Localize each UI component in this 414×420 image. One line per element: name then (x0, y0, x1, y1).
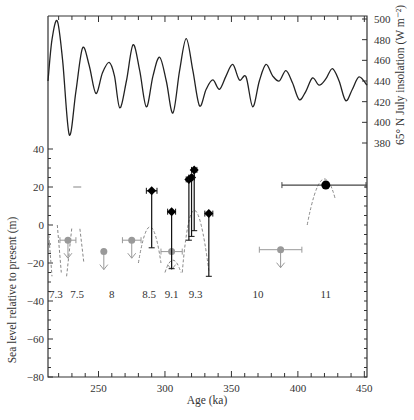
highstand-point (204, 209, 213, 276)
mis-stage-label: 10 (253, 288, 265, 300)
x-tick-label: 450 (356, 382, 373, 394)
left-y-tick-label: 20 (33, 181, 45, 193)
mis-stage-label: 8.5 (142, 288, 156, 300)
right-y-tick-label: 400 (374, 116, 391, 128)
right-y-tick-label: 500 (374, 13, 391, 25)
x-axis-title: Age (ka) (187, 394, 228, 407)
mis-stage-label: 7.3 (49, 288, 63, 300)
x-tick-label: 400 (290, 382, 307, 394)
upper-limit-point (60, 237, 76, 259)
mis-stage-label: 9.3 (189, 288, 203, 300)
plot-frame (48, 16, 367, 377)
left-y-tick-label: −80 (27, 371, 45, 383)
mis-stage-label: 7.5 (70, 288, 84, 300)
mis-stage-label: 8 (109, 288, 115, 300)
left-y-tick-label: 0 (39, 219, 45, 231)
right-y-tick-label: 380 (374, 137, 391, 149)
mis-stage-label: 11 (320, 288, 331, 300)
highstand-point (146, 186, 157, 248)
x-tick-label: 250 (90, 382, 107, 394)
mis11-point (282, 181, 367, 190)
right-y-tick-label: 480 (374, 34, 391, 46)
sea-level-data-points (60, 165, 367, 276)
right-y-axis-title: 65° N July insolation (W m⁻²) (394, 5, 407, 145)
upper-limit-point (122, 237, 141, 259)
axis-labels: 250300350400450−80−60−40−200204038040042… (27, 13, 391, 394)
upper-limit-point (100, 248, 108, 270)
right-y-tick-label: 460 (374, 54, 391, 66)
right-y-tick-label: 420 (374, 96, 391, 108)
upper-limit-point (259, 246, 302, 268)
mis-stage-label: 9.1 (165, 288, 179, 300)
left-y-tick-label: −60 (27, 333, 45, 345)
left-y-tick-label: −40 (27, 295, 45, 307)
x-tick-label: 350 (223, 382, 240, 394)
x-tick-label: 300 (157, 382, 174, 394)
insolation-curve (48, 20, 367, 135)
highstand-point (167, 207, 176, 269)
sea-level-insolation-chart: 250300350400450−80−60−40−200204038040042… (0, 0, 414, 420)
left-y-tick-label: −20 (27, 257, 45, 269)
left-y-axis-title: Sea level relative to present (m) (6, 217, 19, 364)
right-y-tick-label: 440 (374, 75, 391, 87)
left-y-tick-label: 40 (33, 143, 45, 155)
